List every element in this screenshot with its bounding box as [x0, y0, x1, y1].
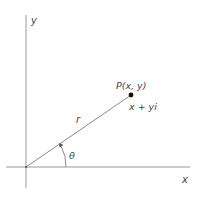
radius-label: r — [76, 114, 81, 125]
polar-complex-diagram: y x P(x, y) x + yi r θ — [0, 0, 199, 202]
complex-label: x + yi — [128, 101, 157, 112]
x-axis-label: x — [181, 174, 188, 185]
angle-arc — [61, 146, 66, 167]
y-axis-label: y — [30, 15, 38, 26]
point-p — [129, 93, 134, 98]
angle-label: θ — [69, 150, 75, 161]
point-label: P(x, y) — [116, 80, 146, 91]
radius-line — [26, 95, 131, 167]
origin-dot — [25, 166, 27, 168]
